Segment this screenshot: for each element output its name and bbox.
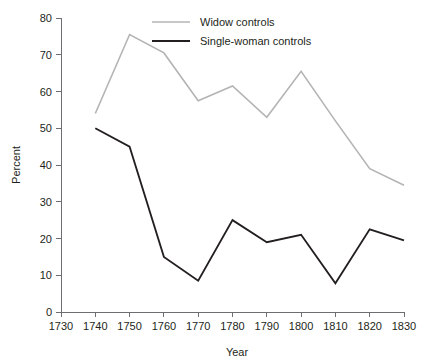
y-tick-label: 40: [40, 159, 52, 171]
chart-legend: Widow controlsSingle-woman controls: [152, 16, 312, 47]
y-axis-title: Percent: [10, 146, 22, 184]
x-tick-label: 1830: [392, 320, 416, 332]
x-tick-label: 1820: [357, 320, 381, 332]
x-tick-label: 1780: [220, 320, 244, 332]
legend-label: Widow controls: [200, 16, 275, 28]
y-tick-label: 70: [40, 49, 52, 61]
x-tick-label: 1740: [83, 320, 107, 332]
x-tick-label: 1770: [186, 320, 210, 332]
y-tick-label: 80: [40, 12, 52, 24]
line-chart: 01020304050607080 1730174017501760177017…: [0, 0, 430, 364]
x-axis: 1730174017501760177017801790180018101820…: [49, 312, 416, 332]
y-tick-label: 30: [40, 196, 52, 208]
series-line-widow-controls: [95, 35, 404, 186]
series-layer: [95, 35, 404, 284]
chart-canvas: 01020304050607080 1730174017501760177017…: [0, 0, 430, 364]
y-axis: 01020304050607080: [40, 12, 61, 318]
x-tick-label: 1810: [323, 320, 347, 332]
x-tick-label: 1730: [49, 320, 73, 332]
y-tick-label: 60: [40, 86, 52, 98]
x-tick-label: 1790: [255, 320, 279, 332]
y-tick-label: 20: [40, 233, 52, 245]
x-tick-label: 1750: [117, 320, 141, 332]
x-axis-title: Year: [226, 346, 249, 358]
y-tick-label: 10: [40, 269, 52, 281]
x-tick-label: 1760: [152, 320, 176, 332]
legend-label: Single-woman controls: [200, 35, 312, 47]
y-tick-label: 50: [40, 122, 52, 134]
y-tick-label: 0: [46, 306, 52, 318]
x-tick-label: 1800: [289, 320, 313, 332]
